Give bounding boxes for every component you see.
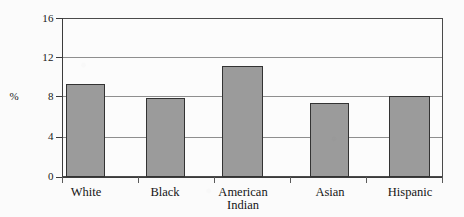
- x-label-asian: Asian: [300, 186, 360, 199]
- x-label-hispanic: Hispanic: [375, 186, 445, 199]
- bar-chart: % 16 12 8 4 0 White Black American India…: [0, 0, 464, 217]
- x-axis-tick-2: [214, 177, 215, 183]
- x-axis-tick-1: [138, 177, 139, 183]
- x-axis-line: [62, 177, 443, 178]
- x-axis-tick-3: [290, 177, 291, 183]
- x-label-american-indian: American Indian: [203, 186, 283, 212]
- y-tick-label-4: 4: [32, 131, 54, 142]
- y-tick-label-0: 0: [32, 171, 54, 182]
- x-axis-tick-5: [442, 177, 443, 183]
- bar-black: [146, 98, 185, 177]
- gridline-12: [63, 57, 442, 58]
- bar-american-indian: [222, 66, 263, 177]
- bar-white: [66, 84, 105, 177]
- x-axis-tick-0: [62, 177, 63, 183]
- y-axis-tick-labels: 16 12 8 4 0: [10, 0, 54, 217]
- x-axis-tick-4: [366, 177, 367, 183]
- y-axis-line: [62, 18, 63, 177]
- y-tick-label-8: 8: [32, 91, 54, 102]
- bar-hispanic: [389, 96, 430, 177]
- y-tick-label-16: 16: [32, 13, 54, 24]
- y-tick-label-12: 12: [32, 52, 54, 63]
- bar-asian: [310, 103, 349, 177]
- x-label-white: White: [56, 186, 116, 199]
- x-label-black: Black: [135, 186, 195, 199]
